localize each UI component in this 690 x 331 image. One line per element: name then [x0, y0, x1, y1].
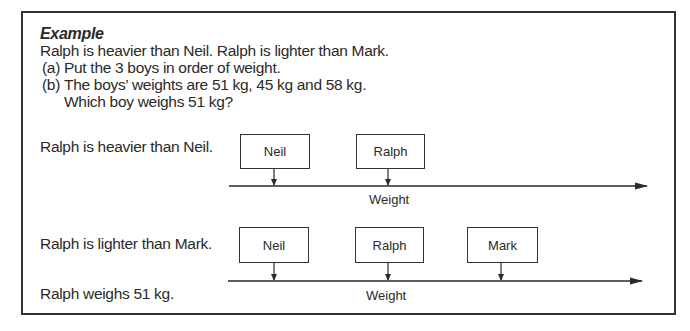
diagram-lines — [0, 0, 690, 331]
